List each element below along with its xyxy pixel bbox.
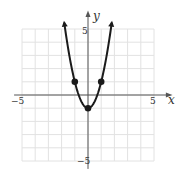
y-min-tick-label: −5 — [77, 156, 91, 166]
y-axis-label: y — [92, 9, 100, 23]
x-min-tick-label: −5 — [11, 96, 25, 106]
x-max-tick-label: 5 — [150, 96, 156, 106]
y-max-tick-label: 5 — [82, 26, 88, 36]
data-point — [85, 105, 92, 112]
data-point — [72, 79, 79, 86]
data-point — [98, 79, 105, 86]
x-axis-label: x — [168, 93, 175, 107]
parabola-graph: x y −5 5 5 −5 — [0, 0, 184, 170]
axes — [14, 11, 172, 169]
